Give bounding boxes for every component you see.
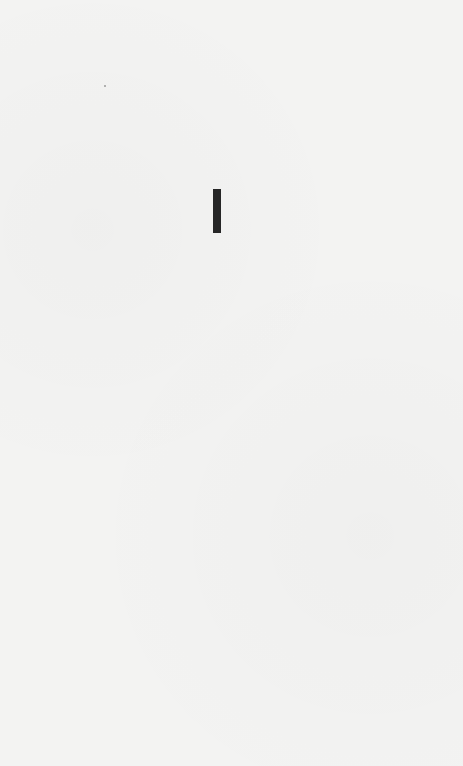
scanned-page: I: [0, 0, 463, 766]
dust-speck: [104, 85, 106, 87]
letter-i: I: [213, 189, 221, 233]
